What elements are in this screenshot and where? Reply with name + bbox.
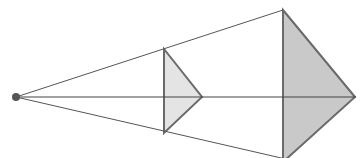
perspective-diagram: [0, 0, 363, 158]
eye-point-icon: [12, 93, 20, 101]
